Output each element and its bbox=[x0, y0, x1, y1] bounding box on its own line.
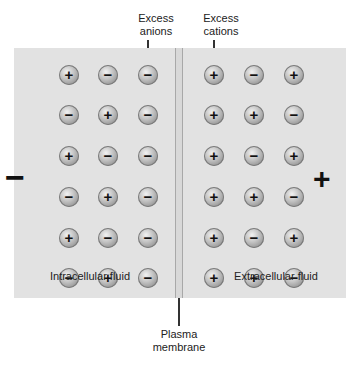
anion-ion: − bbox=[98, 65, 118, 85]
cation-ion: + bbox=[59, 146, 79, 166]
cation-ion: + bbox=[98, 105, 118, 125]
anion-ion: − bbox=[138, 65, 158, 85]
cation-ion: + bbox=[204, 187, 224, 207]
anion-ion: − bbox=[284, 105, 304, 125]
minus-icon: − bbox=[144, 67, 153, 82]
anion-ion: − bbox=[59, 105, 79, 125]
plus-icon: + bbox=[65, 148, 74, 163]
plus-icon: + bbox=[65, 230, 74, 245]
negative-side-sign: − bbox=[5, 160, 25, 194]
plus-icon: + bbox=[290, 67, 299, 82]
minus-icon: − bbox=[144, 230, 153, 245]
anion-ion: − bbox=[98, 146, 118, 166]
cation-ion: + bbox=[98, 187, 118, 207]
minus-icon: − bbox=[144, 189, 153, 204]
plus-icon: + bbox=[65, 67, 74, 82]
plus-icon: + bbox=[290, 230, 299, 245]
plus-icon: + bbox=[210, 189, 219, 204]
plus-icon: + bbox=[210, 230, 219, 245]
cation-ion: + bbox=[204, 65, 224, 85]
anion-ion: − bbox=[98, 228, 118, 248]
cation-ion: + bbox=[204, 228, 224, 248]
positive-side-sign: + bbox=[313, 164, 331, 194]
anion-ion: − bbox=[138, 228, 158, 248]
excess-anions-line-2: anions bbox=[128, 25, 184, 38]
minus-icon: − bbox=[65, 107, 74, 122]
cation-ion: + bbox=[59, 228, 79, 248]
cation-ion: + bbox=[284, 228, 304, 248]
cation-ion: + bbox=[244, 187, 264, 207]
plus-icon: + bbox=[250, 189, 259, 204]
minus-icon: − bbox=[144, 107, 153, 122]
plus-icon: + bbox=[210, 67, 219, 82]
cation-ion: + bbox=[284, 146, 304, 166]
minus-icon: − bbox=[290, 107, 299, 122]
minus-icon: − bbox=[290, 189, 299, 204]
plus-icon: + bbox=[104, 107, 113, 122]
excess-anions-label: Excess anions bbox=[128, 12, 184, 38]
minus-icon: − bbox=[104, 148, 113, 163]
minus-icon: − bbox=[144, 148, 153, 163]
anion-ion: − bbox=[138, 146, 158, 166]
membrane-leader-line bbox=[178, 298, 180, 326]
plasma-membrane-line-2: membrane bbox=[149, 341, 209, 354]
minus-icon: − bbox=[250, 230, 259, 245]
plus-icon: + bbox=[250, 107, 259, 122]
anion-ion: − bbox=[284, 187, 304, 207]
excess-cations-label: Excess cations bbox=[193, 12, 249, 38]
cation-ion: + bbox=[204, 146, 224, 166]
anion-ion: − bbox=[59, 187, 79, 207]
anion-ion: − bbox=[138, 187, 158, 207]
anion-ion: − bbox=[244, 65, 264, 85]
cation-ion: + bbox=[204, 105, 224, 125]
excess-anions-line-1: Excess bbox=[128, 12, 184, 25]
minus-icon: − bbox=[104, 67, 113, 82]
plasma-membrane-line-1: Plasma bbox=[149, 328, 209, 341]
anion-ion: − bbox=[138, 105, 158, 125]
excess-cations-line-2: cations bbox=[193, 25, 249, 38]
plus-icon: + bbox=[104, 189, 113, 204]
extracellular-fluid-label: Extracellular fluid bbox=[216, 270, 336, 283]
minus-icon: − bbox=[65, 189, 74, 204]
anion-ion: − bbox=[244, 146, 264, 166]
minus-icon: − bbox=[104, 230, 113, 245]
minus-icon: − bbox=[250, 148, 259, 163]
plasma-membrane bbox=[175, 48, 183, 298]
plus-icon: + bbox=[210, 107, 219, 122]
plus-icon: + bbox=[210, 148, 219, 163]
cation-ion: + bbox=[59, 65, 79, 85]
intracellular-fluid-region bbox=[14, 48, 175, 298]
cation-ion: + bbox=[284, 65, 304, 85]
intracellular-fluid-label: Intracellular fluid bbox=[30, 270, 150, 283]
cation-ion: + bbox=[244, 105, 264, 125]
excess-cations-line-1: Excess bbox=[193, 12, 249, 25]
plasma-membrane-label: Plasma membrane bbox=[149, 328, 209, 354]
minus-icon: − bbox=[250, 67, 259, 82]
anion-ion: − bbox=[244, 228, 264, 248]
plus-icon: + bbox=[290, 148, 299, 163]
